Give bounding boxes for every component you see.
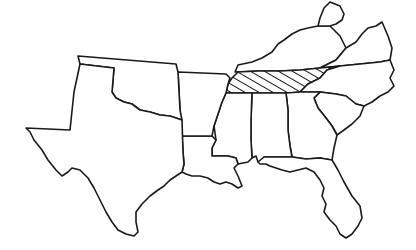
- state-florida: [258, 157, 362, 238]
- state-west-virginia: [318, 2, 344, 26]
- southern-states-map: [0, 0, 416, 250]
- state-alabama: [251, 93, 292, 162]
